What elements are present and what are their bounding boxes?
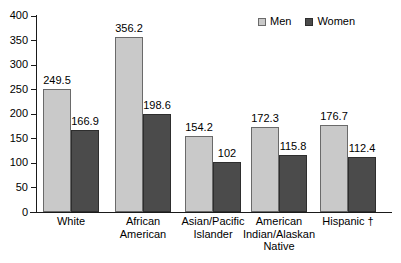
bar-value-label: 198.6	[137, 100, 177, 111]
x-axis-line	[30, 212, 392, 213]
bar-women-1[interactable]	[143, 114, 171, 212]
bar-men-1[interactable]	[115, 37, 143, 212]
bar-women-0[interactable]	[71, 130, 99, 212]
y-axis-tick-label: 200	[0, 108, 28, 119]
y-axis-tick-label: 400	[0, 10, 28, 21]
bar-value-label: 172.3	[245, 113, 285, 124]
y-axis-tick-label: 300	[0, 59, 28, 70]
bar-value-label: 112.4	[342, 143, 382, 154]
y-axis-tick-label: 250	[0, 84, 28, 95]
legend-item-women[interactable]: Women	[305, 16, 355, 27]
bar-men-3[interactable]	[251, 127, 279, 212]
y-axis-tick-label-text: 50	[2, 182, 28, 193]
legend-label: Women	[317, 16, 355, 27]
legend-swatch-women-icon	[305, 18, 313, 26]
bar-value-label: 115.8	[273, 141, 313, 152]
bar-women-3[interactable]	[279, 155, 307, 212]
bar-value-label: 154.2	[179, 122, 219, 133]
y-axis-tick-label: 50	[0, 182, 28, 193]
y-axis-tick-label-text: 100	[2, 157, 28, 168]
bar-men-0[interactable]	[43, 89, 71, 212]
y-axis-tick-label-text: 250	[2, 84, 28, 95]
y-axis-tick-label-text: 350	[2, 35, 28, 46]
bar-women-4[interactable]	[348, 157, 376, 212]
bar-women-2[interactable]	[213, 162, 241, 212]
legend-item-men[interactable]: Men	[258, 16, 291, 27]
bar-value-label: 249.5	[37, 75, 77, 86]
y-axis-tick-label-text: 150	[2, 133, 28, 144]
legend-label: Men	[270, 16, 291, 27]
chart-legend: MenWomen	[258, 16, 355, 27]
y-axis-tick-label-text: 200	[2, 108, 28, 119]
y-axis-tick-label: 100	[0, 157, 28, 168]
bar-chart: 400350300250200150100500 249.5166.9356.2…	[0, 0, 401, 263]
y-axis-tick-label-text: 400	[2, 10, 28, 21]
category-label-4: Hispanic †	[298, 215, 398, 228]
y-axis-tick-label-text: 300	[2, 59, 28, 70]
bar-value-label: 176.7	[314, 111, 354, 122]
bar-value-label: 102	[207, 148, 247, 159]
legend-swatch-men-icon	[258, 18, 266, 26]
plot-area: 249.5166.9356.2198.6154.2102172.3115.817…	[36, 14, 392, 212]
y-axis-tick-label: 150	[0, 133, 28, 144]
y-axis-tick-label: 350	[0, 35, 28, 46]
bar-value-label: 356.2	[109, 23, 149, 34]
bar-value-label: 166.9	[65, 116, 105, 127]
bar-men-4[interactable]	[320, 125, 348, 212]
